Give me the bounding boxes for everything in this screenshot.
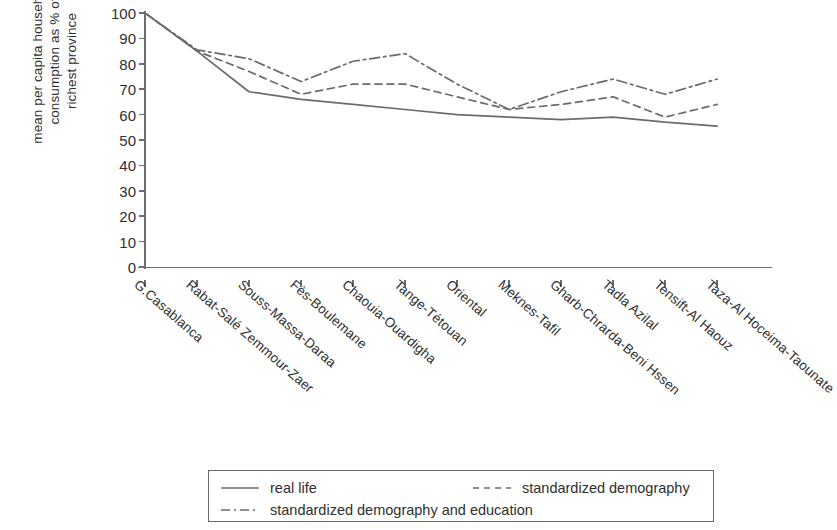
legend-entry-standardized-demography: standardized demography bbox=[471, 480, 690, 496]
x-axis-category-label: Gharb-Chrarda-Beni Hssen bbox=[547, 277, 683, 398]
legend-entry-real-life: real life bbox=[219, 480, 471, 496]
legend-row-2: standardized demography and education bbox=[219, 499, 713, 521]
y-axis-tick bbox=[139, 165, 145, 167]
x-axis-category-label: Tange-Tétouan bbox=[391, 277, 470, 349]
legend-swatch-solid-icon bbox=[219, 483, 261, 493]
y-axis-tick-label: 10 bbox=[119, 233, 136, 250]
x-axis-tick bbox=[248, 280, 250, 287]
x-axis-tick bbox=[664, 280, 666, 287]
x-axis-tick bbox=[560, 280, 562, 287]
x-axis-category-label: Fès-Boulemane bbox=[287, 277, 370, 352]
y-axis-title-line-1: mean per capita household bbox=[29, 0, 46, 144]
y-axis-tick bbox=[139, 139, 145, 141]
x-axis-category-label: Souss-Massa-Daraa bbox=[235, 277, 339, 370]
x-axis-tick bbox=[508, 280, 510, 287]
x-axis-tick bbox=[300, 280, 302, 287]
y-axis-tick-label: 70 bbox=[119, 81, 136, 98]
y-axis-tick-label: 100 bbox=[111, 5, 136, 22]
x-axis-tick bbox=[404, 280, 406, 287]
x-axis-tick bbox=[196, 280, 198, 287]
x-axis-category-label: Chaouia-Ouardigha bbox=[339, 277, 439, 367]
y-axis-tick-label: 50 bbox=[119, 132, 136, 149]
y-axis-tick bbox=[139, 38, 145, 40]
y-axis-tick bbox=[139, 215, 145, 217]
y-axis-tick bbox=[139, 114, 145, 116]
y-axis-tick bbox=[139, 12, 145, 14]
series-line-standardized-demography bbox=[145, 13, 717, 117]
legend-label-real-life: real life bbox=[270, 480, 317, 496]
series-line-standardized-demography-and-education bbox=[145, 13, 717, 110]
y-axis-tick-label: 0 bbox=[128, 259, 136, 276]
plot-area: 0102030405060708090100 bbox=[145, 13, 765, 267]
x-axis-tick bbox=[456, 280, 458, 287]
series-lines bbox=[145, 13, 765, 267]
x-axis-category-label: Oriental bbox=[443, 277, 489, 320]
x-axis-category-label: Meknes-Tafil bbox=[495, 277, 563, 339]
legend-label-standardized-demography: standardized demography bbox=[522, 480, 690, 496]
x-axis-category-label: Taza-Al Hoceima-Taounate bbox=[703, 277, 837, 396]
y-axis-tick-label: 40 bbox=[119, 157, 136, 174]
x-axis-tick bbox=[716, 280, 718, 287]
x-axis-tick bbox=[352, 280, 354, 287]
x-axis-category-label: Rabat-Salé Zemmour-Zaer bbox=[183, 277, 316, 396]
x-axis-category-label: G.Casablanca bbox=[131, 277, 206, 345]
legend-entry-standardized-demography-education: standardized demography and education bbox=[219, 502, 533, 518]
y-axis-tick-label: 60 bbox=[119, 106, 136, 123]
y-axis-title-line-3: richest province bbox=[63, 13, 80, 109]
y-axis-tick-label: 30 bbox=[119, 182, 136, 199]
y-axis-title: mean per capita household consumption as… bbox=[11, 0, 97, 187]
y-axis-tick bbox=[139, 190, 145, 192]
legend-swatch-dashed-icon bbox=[471, 483, 513, 493]
y-axis-title-line-2: consumption as % of bbox=[46, 0, 63, 125]
legend-swatch-dashdot-icon bbox=[219, 505, 261, 515]
x-axis-tick bbox=[612, 280, 614, 287]
y-axis-tick-label: 90 bbox=[119, 30, 136, 47]
legend-label-standardized-demography-education: standardized demography and education bbox=[270, 502, 533, 518]
y-axis-tick bbox=[139, 266, 145, 268]
y-axis-tick bbox=[139, 63, 145, 65]
y-axis-tick bbox=[139, 241, 145, 243]
x-axis-category-label: Tensift-Al Haouz bbox=[651, 277, 736, 354]
y-axis-tick bbox=[139, 88, 145, 90]
chart-legend: real life standardized demography standa… bbox=[208, 470, 714, 522]
x-axis-category-label: Tadla Azilal bbox=[599, 277, 661, 333]
y-axis-tick-label: 20 bbox=[119, 208, 136, 225]
x-axis-tick bbox=[144, 280, 146, 287]
y-axis-tick-label: 80 bbox=[119, 55, 136, 72]
legend-row-1: real life standardized demography bbox=[219, 477, 713, 499]
